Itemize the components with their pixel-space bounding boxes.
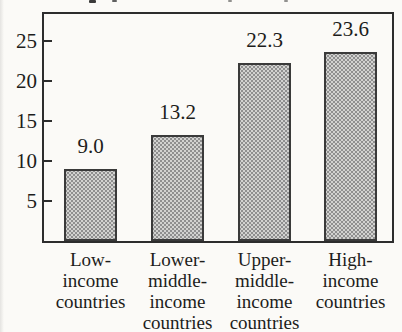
bar-value-label: 23.6 xyxy=(311,18,391,40)
bar xyxy=(151,135,204,241)
y-tick-label: 5 xyxy=(0,189,37,213)
bar xyxy=(238,63,291,241)
y-tick-mark xyxy=(44,40,52,42)
y-tick-mark xyxy=(44,200,52,202)
bar xyxy=(64,169,117,241)
category-label: High- income countries xyxy=(303,249,399,312)
category-label: Upper- middle- income countries xyxy=(217,249,313,332)
category-label: Lower- middle- income countries xyxy=(130,249,226,332)
category-label: Low- income countries xyxy=(43,249,139,312)
y-tick-mark xyxy=(44,160,52,162)
y-tick-label: 20 xyxy=(0,69,37,93)
scanned-bar-chart-figure: 5101520259.0Low- income countries13.2Low… xyxy=(0,0,402,332)
y-tick-label: 15 xyxy=(0,109,37,133)
y-tick-mark xyxy=(44,80,52,82)
bar-value-label: 13.2 xyxy=(138,101,218,123)
bar xyxy=(324,52,377,241)
bar-value-label: 9.0 xyxy=(51,135,131,157)
chart-layer: 5101520259.0Low- income countries13.2Low… xyxy=(0,0,402,332)
bar-value-label: 22.3 xyxy=(225,29,305,51)
y-tick-label: 25 xyxy=(0,29,37,53)
y-tick-label: 10 xyxy=(0,149,37,173)
y-tick-mark xyxy=(44,120,52,122)
